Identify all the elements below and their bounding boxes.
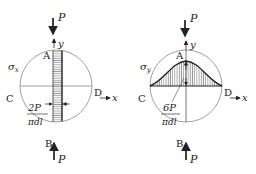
x-axis-label: x <box>242 92 248 103</box>
load-label-top: P <box>57 11 66 24</box>
load-label-top: P <box>189 12 198 25</box>
stress-symbol: σx <box>8 61 19 74</box>
x-axis-label: x <box>112 92 118 103</box>
y-axis-label: y <box>189 39 196 50</box>
figure: P y A σx C D x 2P πdl B P P y A σ <box>0 0 256 174</box>
point-b-label: B <box>176 138 183 149</box>
load-label-bottom: P <box>57 153 66 166</box>
left-panel-sigma-x: P y A σx C D x 2P πdl B P <box>6 11 118 166</box>
stress-strip <box>53 48 62 128</box>
value-numerator: 2P <box>27 102 41 113</box>
value-denominator: πdl <box>27 117 43 127</box>
value-denominator: πdl <box>161 117 177 127</box>
y-axis-label: y <box>57 38 64 49</box>
point-a-label: A <box>42 50 51 61</box>
point-a-label: A <box>175 50 184 61</box>
stress-symbol: σy <box>140 61 152 74</box>
point-d-label: D <box>94 87 102 98</box>
right-panel-sigma-y: P y A σy C D x 6P πdl B P <box>138 12 248 166</box>
point-b-label: B <box>45 138 52 149</box>
load-label-bottom: P <box>189 153 198 166</box>
point-d-label: D <box>224 87 232 98</box>
point-c-label: C <box>6 93 14 104</box>
point-c-label: C <box>138 93 146 104</box>
value-numerator: 6P <box>163 102 176 113</box>
